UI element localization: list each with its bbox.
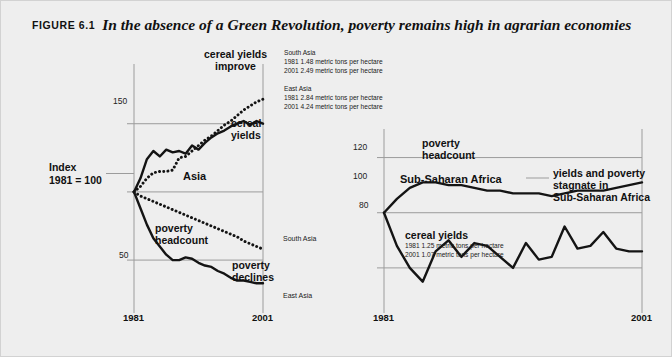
left-endlabel-east-asia: East Asia [283,292,312,299]
left-east-asia-note-2001: 2001 4.24 metric tons per hectare [284,103,383,112]
left-cereal-yields-label: cereal yields [231,117,261,141]
right-ytick-80: 80 [359,200,368,210]
left-cereal-improve-label: cereal yields improve [204,48,267,72]
left-ytick-50: 50 [119,250,128,260]
index-caption: Index 1981 = 100 [49,161,102,186]
right-poverty-headcount-label: poverty headcount [422,137,475,161]
left-east-asia-note-1981: 1981 2.84 metric tons per hectare [284,94,383,103]
left-poverty-headcount-label: poverty headcount [155,222,208,246]
left-xtick-1981: 1981 [123,312,144,323]
figure-panel: FIGURE 6.1In the absence of a Green Revo… [0,0,672,357]
left-east-asia-note-region: East Asia [284,85,312,94]
left-south-asia-note-region: South Asia [284,49,316,58]
right-callout-label: yields and poverty stagnate in Sub-Sahar… [553,167,650,203]
right-ytick-100: 100 [353,171,367,181]
left-south-asia-note-2001: 2001 2.49 metric tons per hectare [284,67,383,76]
left-poverty-declines-label: poverty declines [232,259,274,283]
left-endlabel-south-asia: South Asia [283,235,316,242]
left-ytick-150: 150 [113,96,127,106]
right-ytick-120: 120 [353,142,367,152]
left-xtick-2001: 2001 [252,312,273,323]
right-xtick-2001: 2001 [631,312,652,323]
right-region-label: Sub-Saharan Africa [400,173,502,185]
left-south-asia-note-1981: 1981 1.48 metric tons per hectare [284,58,383,67]
right-xtick-1981: 1981 [373,312,394,323]
right-note-1981: 1981 1.25 metric tons per hectare [405,242,504,251]
asia-axis-label: Asia [183,170,206,182]
right-cereal-yields-label: cereal yields [405,229,468,241]
right-note-2001: 2001 1.07 metric tons per hectare [405,251,504,260]
